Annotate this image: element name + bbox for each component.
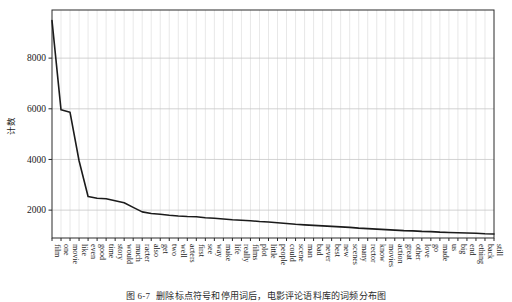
caption-number: 图 6-7	[126, 291, 150, 301]
x-tick-label: still	[495, 244, 504, 257]
x-tick-label: films	[251, 244, 260, 260]
y-tick-label: 2000	[27, 205, 46, 215]
x-tick-label: us	[450, 244, 459, 251]
x-tick-label: people	[279, 244, 288, 266]
plot-frame	[52, 10, 494, 238]
x-tick-label: also	[152, 244, 161, 257]
figure-container: 2000400060008000 filmonemovielikeevengoo…	[0, 0, 512, 302]
x-tick-label: time	[107, 244, 116, 259]
x-tick-label: new	[342, 244, 351, 258]
x-tick-label: go	[432, 244, 441, 252]
x-tick-label: made	[441, 244, 450, 262]
x-axis-tick-labels: filmonemovielikeevengoodtimestorywouldmu…	[53, 244, 504, 267]
x-tick-label: see	[206, 244, 215, 255]
x-tick-label: love	[423, 244, 432, 258]
figure-caption: 图 6-7删除标点符号和停用词后，电影评论语料库的词频分布图	[0, 291, 512, 302]
x-tick-label: action	[396, 244, 405, 264]
word-frequency-line	[52, 21, 494, 234]
major-gridlines	[52, 58, 494, 210]
y-tick-label: 4000	[27, 155, 46, 165]
x-tick-label: life	[233, 244, 242, 255]
x-tick-label: movie	[71, 244, 80, 264]
y-axis-label: 计数	[6, 117, 16, 135]
x-tick-label: good	[98, 244, 107, 260]
x-tick-label: scene	[297, 244, 306, 262]
caption-text: 删除标点符号和停用词后，电影评论语料库的词频分布图	[156, 291, 386, 301]
x-tick-label: end	[468, 244, 477, 256]
x-tick-label: other	[414, 244, 423, 261]
x-tick-label: two	[170, 244, 179, 256]
x-tick-label: even	[89, 244, 98, 259]
x-tick-label: bad	[315, 244, 324, 256]
x-tick-label: big	[459, 244, 468, 254]
x-tick-label: rector	[369, 244, 378, 263]
x-tick-label: never	[324, 244, 333, 262]
x-tick-label: really	[242, 244, 251, 262]
y-tick-label: 8000	[27, 53, 46, 63]
x-tick-label: way	[215, 244, 224, 257]
x-tick-label: ething	[477, 244, 486, 264]
x-tick-label: like	[80, 244, 89, 256]
x-tick-label: racter	[143, 244, 152, 263]
x-tick-label: film	[53, 244, 62, 258]
x-tick-label: great	[405, 244, 414, 261]
x-tick-label: make	[224, 244, 233, 262]
x-tick-label: little	[269, 244, 278, 259]
y-tick-label: 6000	[27, 104, 46, 114]
frequency-distribution-chart: 2000400060008000 filmonemovielikeevengoo…	[0, 0, 512, 292]
x-tick-label: man	[306, 244, 315, 258]
y-axis-ticks: 2000400060008000	[27, 53, 52, 215]
x-tick-label: get	[161, 244, 170, 255]
x-tick-label: first	[197, 244, 206, 258]
x-tick-label: best	[333, 244, 342, 258]
x-tick-label: scenes	[351, 244, 360, 265]
x-tick-label: would	[125, 244, 134, 264]
x-tick-label: back	[486, 244, 495, 259]
x-tick-label: many	[360, 244, 369, 262]
x-tick-label: movies	[387, 244, 396, 267]
x-tick-label: story	[116, 244, 125, 260]
x-tick-label: much	[134, 244, 143, 262]
x-tick-label: acters	[188, 244, 197, 263]
x-tick-label: could	[288, 244, 297, 262]
x-tick-label: know	[378, 244, 387, 262]
chart-plot-area: 2000400060008000 filmonemovielikeevengoo…	[0, 0, 512, 292]
x-tick-label: well	[179, 244, 188, 259]
x-tick-label: one	[62, 244, 71, 256]
x-tick-label: plot	[260, 244, 269, 257]
